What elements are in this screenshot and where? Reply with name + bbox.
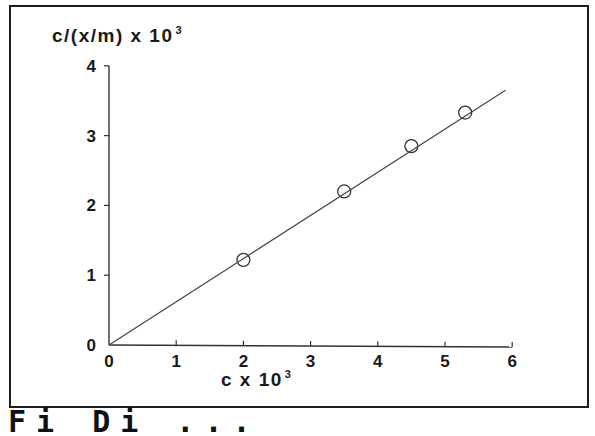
y-tick-label: 4 <box>87 57 97 76</box>
y-tick-label: 0 <box>87 336 96 355</box>
y-tick-label: 2 <box>87 196 96 215</box>
fit-line <box>109 90 505 345</box>
x-tick-label: 6 <box>507 352 516 371</box>
x-tick-label: 2 <box>239 352 248 371</box>
x-tick-label: 3 <box>306 352 315 371</box>
figure-caption-fragment: Fi Di ... <box>8 404 261 436</box>
x-tick-label: 4 <box>373 352 383 371</box>
x-tick-label: 5 <box>440 352 449 371</box>
x-tick-label: 0 <box>104 352 113 371</box>
y-tick-label: 3 <box>87 127 96 146</box>
y-tick-label: 1 <box>87 266 96 285</box>
x-tick-label: 1 <box>171 352 180 371</box>
